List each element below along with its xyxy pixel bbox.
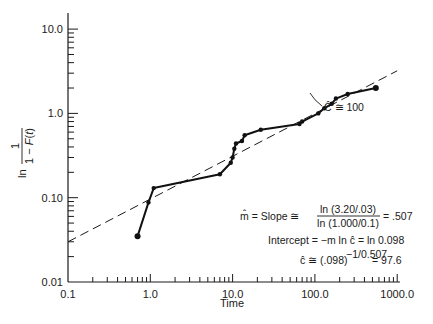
- x-tick-label: 1.0: [143, 288, 158, 300]
- data-point: [240, 139, 244, 143]
- svg-text:ln (3.20/.03): ln (3.20/.03): [320, 203, 376, 215]
- slope-formula: m̂ = Slope ≅ ln (3.20/.03) ln (1.000/0.1…: [240, 203, 413, 229]
- svg-text:m̂ = Slope ≅: m̂ = Slope ≅: [240, 209, 300, 222]
- svg-text:Ĉ ≅ 100: Ĉ ≅ 100: [324, 101, 364, 113]
- data-point: [135, 233, 141, 239]
- svg-text:ln: ln: [16, 169, 28, 178]
- x-tick-label: 0.1: [60, 288, 75, 300]
- data-point: [316, 111, 320, 115]
- y-axis-title: ln 1 1 − F(t): [9, 128, 35, 178]
- x-tick-label: 100.0: [301, 288, 329, 300]
- data-point: [300, 119, 304, 123]
- data-point: [232, 147, 236, 151]
- data-point: [229, 161, 233, 165]
- data-point: [152, 186, 156, 190]
- data-point: [230, 155, 234, 159]
- svg-text:1 − F(t): 1 − F(t): [23, 128, 35, 164]
- y-tick-label: 10.0: [42, 23, 63, 35]
- x-axis-title: Time: [220, 297, 244, 309]
- data-point: [146, 200, 150, 204]
- weibull-plot: 0.11.010.0100.01000.00.010.101.010.0 Tim…: [0, 0, 433, 324]
- svg-text:ĉ ≅ (.098): ĉ ≅ (.098): [300, 254, 348, 266]
- x-tick-label: 1000.0: [380, 288, 414, 300]
- c-estimate-callout: Ĉ ≅ 100: [310, 93, 364, 113]
- data-point: [234, 141, 238, 145]
- data-point: [218, 172, 222, 176]
- y-tick-label: 0.10: [42, 192, 63, 204]
- y-tick-label: 1.0: [48, 107, 63, 119]
- data-point: [259, 128, 263, 132]
- data-point: [373, 85, 379, 91]
- svg-text:ln (1.000/0.1): ln (1.000/0.1): [317, 217, 379, 229]
- c-estimate-formula: ĉ ≅ (.098) −1/0.507 = 97.6: [300, 248, 402, 266]
- svg-text:1: 1: [9, 143, 21, 149]
- svg-text:= 97.6: = 97.6: [372, 254, 402, 266]
- intercept-formula: Intercept = −m ln ĉ = ln 0.098: [268, 234, 404, 246]
- data-point: [242, 133, 246, 137]
- y-tick-label: 0.01: [42, 276, 63, 288]
- svg-text:= .507: = .507: [383, 210, 413, 222]
- data-point: [345, 92, 349, 96]
